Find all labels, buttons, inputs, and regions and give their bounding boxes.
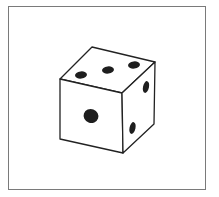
die-illustration	[0, 0, 219, 197]
